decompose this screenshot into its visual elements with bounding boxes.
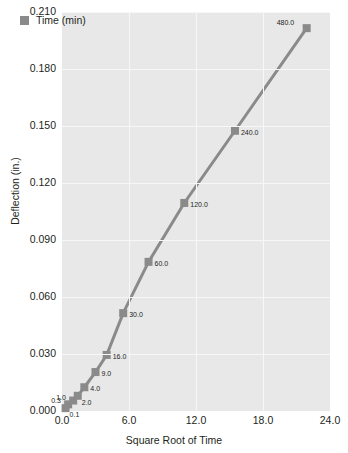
data-point-label: 60.0 [155,260,169,267]
gridline-vertical [129,12,130,411]
data-point-marker[interactable] [80,383,88,391]
data-point-label: 2.0 [82,399,92,406]
y-axis-tick-label: 0.090 [2,234,56,245]
y-axis-tick-label: 0.000 [2,405,56,416]
data-point-label: 240.0 [241,129,259,136]
data-point-label: 480.0 [277,19,295,26]
data-point-label: 9.0 [102,370,112,377]
x-axis-tick-label: 24.0 [305,415,348,426]
data-point-marker[interactable] [119,309,127,317]
data-point-marker[interactable] [145,258,153,266]
data-point-label: 30.0 [129,311,143,318]
data-point-label: 1.0 [56,394,66,401]
x-axis-title: Square Root of Time [0,434,348,446]
data-point-label: 16.0 [113,353,127,360]
x-axis-tick-label: 12.0 [171,415,221,426]
gridline-vertical [196,12,197,411]
legend-swatch-icon [20,16,29,25]
data-point-marker[interactable] [180,199,188,207]
y-axis-tick-label: 0.210 [2,6,56,17]
y-axis-tick-label: 0.060 [2,291,56,302]
data-point-marker[interactable] [92,368,100,376]
data-point-marker[interactable] [303,24,311,32]
data-point-marker[interactable] [74,392,82,400]
data-point-label: 120.0 [190,201,208,208]
y-axis-tick-label: 0.120 [2,177,56,188]
chart-container: 0.10.31.02.04.09.016.030.060.0120.0240.0… [0,0,348,453]
plot-area: 0.10.31.02.04.09.016.030.060.0120.0240.0… [62,12,330,411]
data-point-marker[interactable] [231,127,239,135]
x-axis-tick-label: 18.0 [238,415,288,426]
data-point-label: 4.0 [90,385,100,392]
x-axis-tick-label: 6.0 [104,415,154,426]
y-axis-tick-label: 0.150 [2,120,56,131]
gridline-vertical [263,12,264,411]
y-axis-tick-label: 0.180 [2,63,56,74]
x-axis-tick-label: 0.0 [37,415,87,426]
series-line [66,28,307,408]
data-point-marker[interactable] [103,351,111,359]
y-axis-tick-label: 0.030 [2,348,56,359]
